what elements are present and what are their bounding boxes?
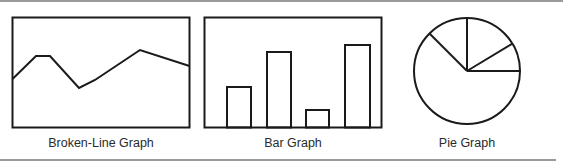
bottom-rule <box>0 159 556 161</box>
pie-radius-31deg <box>467 44 512 71</box>
line-graph-frame <box>13 18 190 128</box>
pie-graph-caption: Pie Graph <box>414 136 520 150</box>
bar-graph <box>205 18 382 128</box>
pie-graph <box>414 18 520 124</box>
pie-radius-135deg <box>430 34 468 72</box>
line-graph-caption: Broken-Line Graph <box>12 136 190 150</box>
bar-1 <box>227 87 251 128</box>
line-series <box>13 50 190 88</box>
broken-line-graph <box>13 18 190 128</box>
bar-3 <box>306 110 329 128</box>
bar-4 <box>345 45 370 128</box>
bar-graph-frame <box>205 18 382 128</box>
bar-2 <box>267 52 291 128</box>
bar-graph-caption: Bar Graph <box>204 136 382 150</box>
